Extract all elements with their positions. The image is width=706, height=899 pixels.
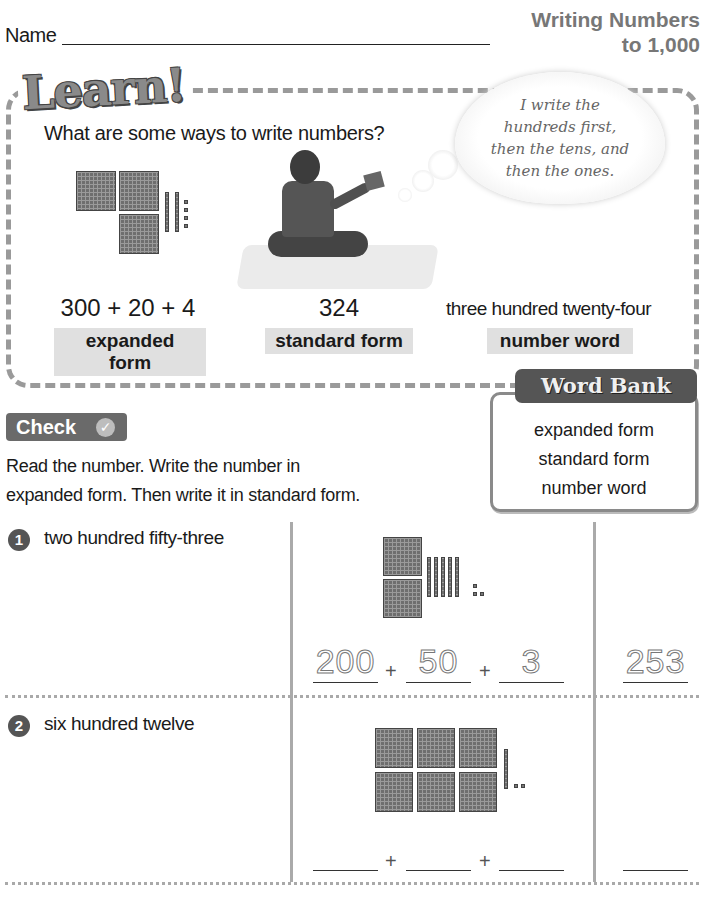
one-cube-icon bbox=[184, 208, 188, 212]
expanded-hundreds-answer[interactable]: 200 bbox=[313, 641, 378, 683]
standard-form-answer[interactable] bbox=[623, 829, 688, 871]
ten-rod-icon bbox=[434, 557, 438, 597]
problem-words: six hundred twelve bbox=[44, 713, 194, 735]
plus-sign: + bbox=[479, 850, 491, 873]
hundred-flat-icon bbox=[417, 728, 455, 768]
check-instructions: Read the number. Write the number in exp… bbox=[6, 452, 360, 510]
hundred-flat-icon bbox=[383, 579, 422, 618]
one-cube-icon bbox=[521, 784, 525, 788]
ten-rod-icon bbox=[441, 557, 445, 597]
expanded-ones-answer[interactable] bbox=[499, 829, 564, 871]
plus-sign: + bbox=[385, 660, 397, 683]
hundred-flat-icon bbox=[417, 772, 455, 812]
word-bank-title: Word Bank bbox=[515, 369, 697, 403]
one-cube-icon bbox=[473, 584, 477, 588]
expanded-tens-answer[interactable]: 50 bbox=[406, 641, 471, 683]
hundred-flat-icon bbox=[375, 772, 413, 812]
one-cube-icon bbox=[184, 216, 188, 220]
row-divider bbox=[5, 882, 699, 885]
word-bank-item: expanded form bbox=[490, 420, 698, 441]
name-label: Name bbox=[5, 24, 56, 47]
number-word-label: number word bbox=[487, 328, 633, 354]
plus-sign: + bbox=[385, 850, 397, 873]
column-divider bbox=[290, 522, 293, 882]
hundred-flat-icon bbox=[119, 214, 159, 254]
ten-rod-icon bbox=[448, 557, 452, 597]
one-cube-icon bbox=[184, 200, 188, 204]
ten-rod-icon bbox=[175, 192, 179, 232]
name-input-line[interactable] bbox=[62, 44, 490, 45]
problem-number-badge: 2 bbox=[8, 715, 30, 737]
ten-rod-icon bbox=[427, 557, 431, 597]
hundred-flat-icon bbox=[459, 728, 497, 768]
child-with-blocks-photo bbox=[240, 145, 435, 290]
ten-rod-icon bbox=[504, 749, 508, 789]
one-cube-icon bbox=[480, 592, 484, 596]
hundred-flat-icon bbox=[459, 772, 497, 812]
expanded-hundreds-answer[interactable] bbox=[313, 829, 378, 871]
checkmark-icon: ✓ bbox=[96, 418, 115, 437]
expanded-form-example: 300 + 20 + 4 bbox=[28, 294, 228, 322]
word-bank-item: standard form bbox=[490, 449, 698, 470]
standard-form-label: standard form bbox=[265, 328, 413, 354]
hundred-flat-icon bbox=[119, 171, 159, 211]
plus-sign: + bbox=[479, 660, 491, 683]
hundred-flat-icon bbox=[375, 728, 413, 768]
one-cube-icon bbox=[514, 784, 518, 788]
problem-words: two hundred fifty-three bbox=[44, 527, 224, 549]
problem-number-badge: 1 bbox=[8, 529, 30, 551]
hundred-flat-card bbox=[363, 171, 385, 191]
expanded-ones-answer[interactable]: 3 bbox=[499, 641, 564, 683]
title-line-1: Writing Numbers bbox=[531, 7, 700, 32]
title-line-2: to 1,000 bbox=[531, 32, 700, 57]
expanded-tens-answer[interactable] bbox=[406, 829, 471, 871]
one-cube-icon bbox=[184, 224, 188, 228]
learn-logo: Learn! bbox=[17, 58, 191, 121]
word-bank-item: number word bbox=[490, 478, 698, 499]
number-word-example: three hundred twenty-four bbox=[446, 298, 651, 320]
thought-text: I write the hundreds first, then the ten… bbox=[455, 94, 665, 182]
row-divider bbox=[5, 695, 699, 698]
column-divider bbox=[593, 522, 596, 882]
one-cube-icon bbox=[473, 592, 477, 596]
ten-rod-icon bbox=[455, 557, 459, 597]
hundred-flat-icon bbox=[383, 537, 422, 576]
hundred-flat-icon bbox=[76, 171, 116, 211]
standard-form-answer[interactable]: 253 bbox=[623, 641, 688, 683]
page-title: Writing Numbers to 1,000 bbox=[531, 7, 700, 57]
learn-question: What are some ways to write numbers? bbox=[44, 122, 384, 145]
thought-cloud: I write the hundreds first, then the ten… bbox=[455, 72, 665, 204]
standard-form-example: 324 bbox=[265, 294, 413, 322]
expanded-form-label: expanded form bbox=[54, 328, 206, 376]
ten-rod-icon bbox=[165, 192, 169, 232]
